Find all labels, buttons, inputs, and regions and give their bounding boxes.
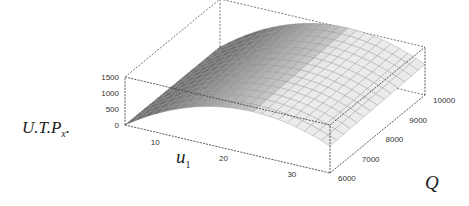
z-axis-label: U.T.Px. [22, 118, 70, 139]
svg-text:6000: 6000 [338, 174, 356, 183]
svg-text:9000: 9000 [409, 116, 427, 125]
x-axis-label: u1 [176, 146, 191, 170]
surface [125, 23, 425, 146]
svg-text:10: 10 [151, 138, 160, 147]
svg-text:7000: 7000 [362, 155, 380, 164]
svg-text:1500: 1500 [101, 73, 119, 82]
svg-text:30: 30 [287, 170, 296, 179]
svg-text:8000: 8000 [386, 135, 404, 144]
y-axis-label: Q [425, 172, 439, 194]
svg-text:10000: 10000 [433, 96, 456, 105]
svg-text:20: 20 [219, 154, 228, 163]
svg-text:1000: 1000 [101, 89, 119, 98]
svg-text:0: 0 [115, 121, 120, 130]
surface-plot: 050010001500102030600070008000900010000 [0, 0, 469, 206]
svg-text:500: 500 [106, 105, 120, 114]
